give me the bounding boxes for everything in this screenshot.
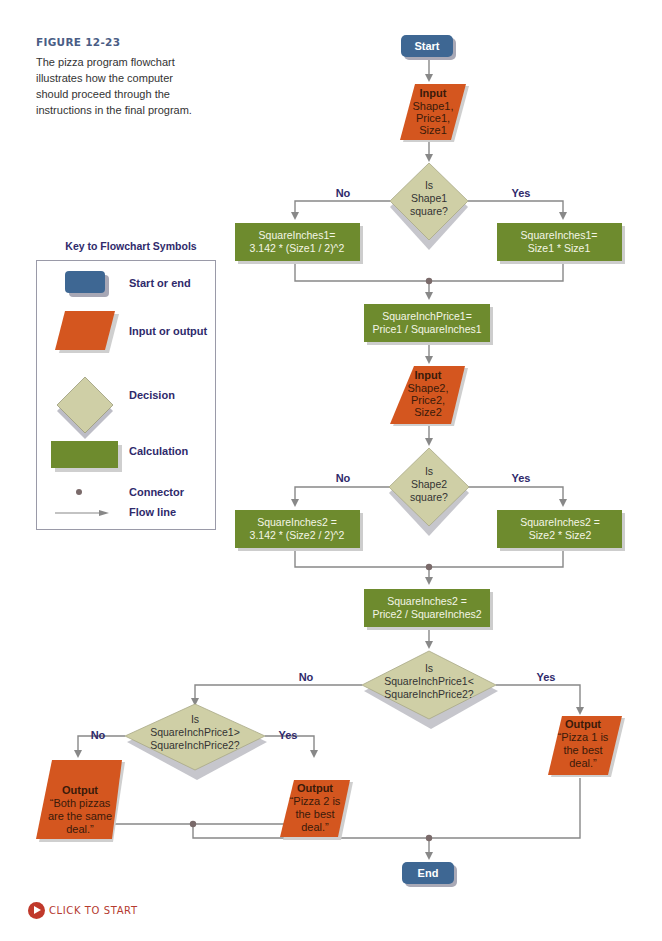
calc1-yes-shape: SquareInches1= Size1 * Size1 [497, 223, 625, 264]
start-label: Start [414, 40, 439, 52]
output-pizza1-line: deal.” [569, 757, 597, 769]
decision4-no-label: No [91, 729, 106, 741]
play-icon [28, 902, 45, 919]
end-label: End [418, 867, 439, 879]
calc-price2-line: SquareInches2 = [387, 595, 467, 607]
decision1-no-label: No [336, 187, 351, 199]
output-same-line: deal.” [66, 823, 94, 835]
output-pizza1-shape: Output “Pizza 1 is the best deal.” [548, 716, 625, 777]
decision4-yes-label: Yes [279, 729, 298, 741]
output-pizza1-title: Output [565, 718, 601, 730]
input1-line: Size1 [419, 124, 447, 136]
calc1-no-shape: SquareInches1= 3.142 * (Size1 / 2)^2 [235, 223, 363, 264]
decision3-line: Is [425, 662, 433, 674]
output-same-deal-shape: Output “Both pizzas are the same deal.” [36, 760, 125, 842]
start-terminal: Start [401, 35, 456, 60]
decision4-line: SquareInchPrice2? [150, 739, 239, 751]
input2-line: Shape2, [408, 382, 449, 394]
calc2-no-shape: SquareInches2 = 3.142 * (Size2 / 2)^2 [235, 510, 363, 551]
decision1-yes-label: Yes [512, 187, 531, 199]
decision3-line: SquareInchPrice1< [384, 675, 474, 687]
decision4-line: SquareInchPrice1> [150, 726, 240, 738]
input1-title: Input [420, 87, 447, 99]
input2-line: Price2, [411, 394, 445, 406]
decision1-shape: Is Shape1 square? [390, 163, 468, 250]
decision2-line: Shape2 [411, 478, 447, 490]
output-pizza2-line: “Pizza 2 is [290, 795, 341, 807]
output-pizza2-line: the best [295, 808, 334, 820]
decision4-line: Is [191, 713, 199, 725]
decision2-no-label: No [336, 472, 351, 484]
output-pizza2-line: deal.” [301, 821, 329, 833]
output-same-line: “Both pizzas [50, 797, 111, 809]
input1-line: Price1, [416, 112, 450, 124]
output-pizza2-shape: Output “Pizza 2 is the best deal.” [280, 780, 353, 840]
decision1-line: Shape1 [411, 192, 447, 204]
decision2-line: Is [425, 465, 433, 477]
connector-icon [190, 821, 196, 827]
calc-price1-shape: SquareInchPrice1= Price1 / SquareInches1 [364, 304, 493, 345]
click-to-start-button[interactable]: CLICK TO START [28, 902, 138, 919]
input2-title: Input [415, 369, 442, 381]
click-to-start-label: CLICK TO START [49, 905, 138, 916]
calc-price1-line: Price1 / SquareInches1 [372, 323, 481, 335]
calc-price2-shape: SquareInches2 = Price2 / SquareInches2 [364, 589, 493, 630]
decision3-yes-label: Yes [537, 671, 556, 683]
input2-line: Size2 [414, 406, 442, 418]
calc2-yes-line: SquareInches2 = [520, 516, 600, 528]
pizza-flowchart: Start Input Shape1, Price1, Size1 Is Sha… [0, 0, 662, 941]
decision2-line: square? [410, 491, 448, 503]
calc1-no-line: 3.142 * (Size1 / 2)^2 [250, 242, 345, 254]
output-same-title: Output [62, 784, 98, 796]
output-pizza1-line: the best [563, 744, 602, 756]
input1-shape: Input Shape1, Price1, Size1 [400, 84, 469, 142]
connector-icon [426, 564, 432, 570]
end-terminal: End [402, 862, 457, 887]
decision3-no-label: No [299, 671, 314, 683]
calc1-yes-line: SquareInches1= [521, 229, 598, 241]
calc1-yes-line: Size1 * Size1 [528, 242, 591, 254]
decision3-shape: Is SquareInchPrice1< SquareInchPrice2? [362, 651, 498, 729]
calc-price1-line: SquareInchPrice1= [382, 310, 472, 322]
decision1-line: square? [410, 205, 448, 217]
output-pizza1-line: “Pizza 1 is [558, 731, 609, 743]
decision1-line: Is [425, 179, 433, 191]
calc2-no-line: 3.142 * (Size2 / 2)^2 [250, 529, 345, 541]
decision2-shape: Is Shape2 square? [389, 448, 469, 536]
calc1-no-line: SquareInches1= [259, 229, 336, 241]
decision4-shape: Is SquareInchPrice1> SquareInchPrice2? [125, 704, 267, 780]
calc2-yes-shape: SquareInches2 = Size2 * Size2 [497, 510, 625, 551]
output-pizza2-title: Output [297, 782, 333, 794]
connector-icon [426, 278, 432, 284]
decision3-line: SquareInchPrice2? [384, 688, 473, 700]
calc-price2-line: Price2 / SquareInches2 [372, 608, 481, 620]
input2-shape: Input Shape2, Price2, Size2 [390, 366, 468, 426]
calc2-yes-line: Size2 * Size2 [529, 529, 592, 541]
decision2-yes-label: Yes [512, 472, 531, 484]
calc2-no-line: SquareInches2 = [257, 516, 337, 528]
connector-icon [426, 835, 432, 841]
input1-line: Shape1, [413, 100, 454, 112]
output-same-line: are the same [48, 810, 112, 822]
